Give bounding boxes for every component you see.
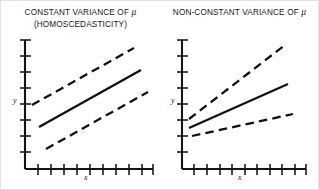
y-axis-label: y <box>171 96 175 105</box>
lower-bound-line <box>192 114 293 136</box>
lower-bound-line <box>46 92 148 149</box>
mean-regression-line <box>189 84 288 128</box>
figure-container: CONSTANT VARIANCE OF μ (HOMOSCEDASTICITY… <box>0 0 319 190</box>
x-axis-label: x <box>238 173 242 182</box>
y-axis-label: y <box>13 96 17 105</box>
plot-homoscedastic <box>1 1 160 190</box>
upper-bound-line <box>32 48 134 105</box>
plot-heteroscedastic <box>160 1 319 190</box>
panel-heteroscedastic: NON-CONSTANT VARIANCE OF μ <box>160 1 319 190</box>
x-axis-label: x <box>84 173 88 182</box>
mean-regression-line <box>39 70 141 127</box>
panel-homoscedastic: CONSTANT VARIANCE OF μ (HOMOSCEDASTICITY… <box>1 1 160 190</box>
